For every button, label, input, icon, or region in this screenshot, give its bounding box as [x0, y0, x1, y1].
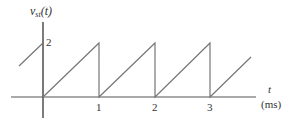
sawtooth-wave — [19, 43, 251, 97]
x-axis-unit: (ms) — [261, 98, 282, 111]
x-tick-2: 2 — [152, 101, 158, 113]
x-tick-1: 1 — [96, 101, 102, 113]
x-tick-3: 3 — [207, 101, 213, 113]
sawtooth-diagram: vst(t) 2 1 2 3 t (ms) — [0, 0, 291, 125]
y-axis-label: vst(t) — [30, 4, 52, 19]
y-tick-2: 2 — [46, 36, 52, 48]
x-axis-label: t — [268, 83, 272, 95]
